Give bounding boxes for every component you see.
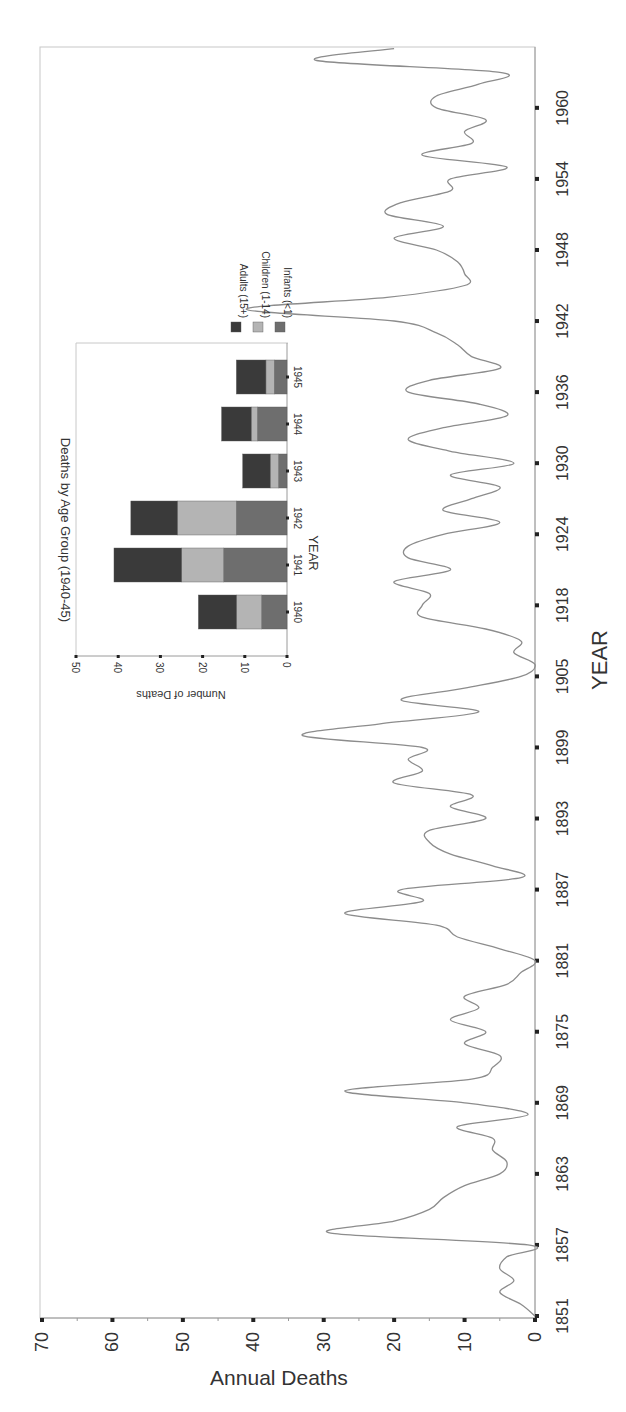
inset-value-tick-mark [243,655,246,658]
deaths-tick-label: 0 [525,1332,545,1342]
deaths-tick-label: 50 [173,1332,193,1352]
year-tick-mark [535,177,539,181]
inset-legend-swatch [231,322,241,332]
inset-value-tick-label: 10 [239,662,250,674]
main-plot-frame [40,47,535,1318]
inset-bar-segment [270,454,278,488]
inset-year-tick-label: 1942 [292,507,303,530]
deaths-tick-mark [533,1318,537,1322]
inset-bar-segment [266,360,274,394]
inset-value-tick-label: 50 [70,662,81,674]
inset-bar-segment [182,548,224,582]
deaths-tick-label: 70 [32,1332,52,1352]
deaths-tick-mark [322,1318,326,1322]
year-axis-ticks: 1851185718631869187518811887189318991905… [535,90,571,1334]
deaths-tick-mark [181,1318,185,1322]
inset-year-axis-label: YEAR [306,535,321,570]
inset-bar-segment [114,548,182,582]
inset-bar-segment [251,407,257,441]
year-tick-label: 1863 [554,1156,571,1192]
inset-value-tick-label: 40 [112,662,123,674]
deaths-axis-label: Annual Deaths [210,1366,348,1389]
inset-year-ticks: 194019411942194319441945 [286,366,303,624]
year-tick-mark [535,248,539,252]
year-tick-label: 1899 [554,730,571,766]
inset-value-tick-mark [159,655,162,658]
inset-bar-segment [222,407,252,441]
year-tick-mark [535,461,539,465]
deaths-tick-label: 10 [455,1332,475,1352]
inset-legend: Adults (15+)Children (1-14)Infants (<1) [231,251,293,332]
inset-value-tick-label: 20 [197,662,208,674]
inset-year-tick-label: 1945 [292,366,303,389]
year-tick-label: 1936 [554,374,571,410]
inset-year-tick-mark [286,517,289,520]
year-tick-mark [535,532,539,536]
inset-bar-segment [236,360,266,394]
year-tick-mark [535,817,539,821]
chart-canvas: 010203040506070 185118571863186918751881… [0,0,626,1412]
inset-year-tick-label: 1941 [292,554,303,577]
year-tick-label: 1942 [554,303,571,339]
deaths-tick-label: 40 [243,1332,263,1352]
inset-year-tick-mark [286,423,289,426]
year-tick-label: 1875 [554,1014,571,1050]
year-tick-label: 1881 [554,943,571,979]
year-tick-mark [535,745,539,749]
deaths-tick-mark [110,1318,114,1322]
year-tick-label: 1869 [554,1085,571,1121]
year-tick-mark [535,674,539,678]
inset-value-tick-mark [75,655,78,658]
year-tick-mark [535,390,539,394]
year-tick-label: 1918 [554,587,571,623]
year-tick-label: 1893 [554,801,571,837]
inset-bar-segment [257,407,287,441]
deaths-axis-ticks: 010203040506070 [32,1318,545,1352]
year-tick-label: 1924 [554,516,571,552]
year-tick-mark [535,106,539,110]
year-tick-label: 1851 [554,1298,571,1334]
year-tick-mark [535,1101,539,1105]
inset-value-tick-label: 30 [154,662,165,674]
inset-year-tick-label: 1944 [292,413,303,436]
inset-legend-label: Children (1-14) [260,251,271,318]
inset-year-tick-mark [286,611,289,614]
inset-value-tick-mark [117,655,120,658]
inset-bar-segment [236,595,261,629]
inset-bar-segment [279,454,287,488]
deaths-tick-mark [463,1318,467,1322]
deaths-tick-label: 60 [102,1332,122,1352]
year-tick-mark [535,603,539,607]
inset-value-axis-label: Number of Deaths [136,689,226,701]
year-tick-label: 1887 [554,872,571,908]
inset-legend-label: Adults (15+) [238,264,249,318]
inset-bar-segment [177,501,236,535]
year-tick-mark [535,319,539,323]
inset-value-tick-label: 0 [281,662,292,668]
deaths-tick-mark [40,1318,44,1322]
year-tick-mark [535,1172,539,1176]
inset-year-tick-label: 1940 [292,601,303,624]
inset-bar-segment [131,501,177,535]
inset-bar-segment [274,360,287,394]
inset-bar-segment [236,501,287,535]
inset-value-tick-mark [201,655,204,658]
inset-year-tick-mark [286,376,289,379]
chart-figure: 010203040506070 185118571863186918751881… [0,0,626,1412]
inset-year-tick-mark [286,470,289,473]
inset-year-tick-label: 1943 [292,460,303,483]
year-tick-label: 1930 [554,445,571,481]
annual-deaths-line [246,49,538,1316]
inset-title: Deaths by Age Group (1940-45) [58,438,73,622]
inset-legend-label: Infants (<1) [282,267,293,318]
inset-bar-segment [198,595,236,629]
year-tick-mark [535,888,539,892]
inset-chart: 01020304050 194019411942194319441945 Adu… [58,251,321,701]
inset-legend-swatch [253,322,263,332]
year-tick-mark [535,1030,539,1034]
inset-bar-segment [224,548,287,582]
inset-value-tick-mark [286,655,289,658]
inset-bar-segment [262,595,287,629]
year-tick-mark [535,1314,539,1318]
year-tick-label: 1857 [554,1227,571,1263]
